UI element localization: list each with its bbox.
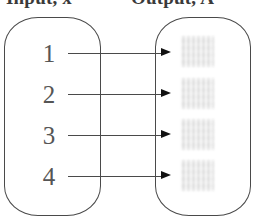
arrow-shaft bbox=[68, 176, 162, 177]
diagram-canvas: Input, x Output, A 1 2 3 4 bbox=[0, 0, 257, 221]
arrow-shaft bbox=[68, 53, 162, 54]
output-column-header: Output, A bbox=[131, 0, 214, 9]
arrow-shaft bbox=[68, 94, 162, 95]
input-element-3: 3 bbox=[36, 123, 62, 148]
input-element-2: 2 bbox=[36, 82, 62, 107]
output-element-2-redacted bbox=[180, 78, 214, 109]
input-element-4: 4 bbox=[36, 164, 62, 189]
arrow-head-icon bbox=[161, 171, 171, 179]
arrow-shaft bbox=[68, 135, 162, 136]
arrow-head-icon bbox=[161, 48, 171, 56]
output-element-3-redacted bbox=[180, 119, 214, 150]
output-element-4-redacted bbox=[180, 160, 214, 191]
arrow-head-icon bbox=[161, 130, 171, 138]
arrow-head-icon bbox=[161, 89, 171, 97]
input-column-header: Input, x bbox=[6, 0, 72, 9]
input-element-1: 1 bbox=[36, 41, 62, 66]
output-element-1-redacted bbox=[180, 36, 214, 67]
